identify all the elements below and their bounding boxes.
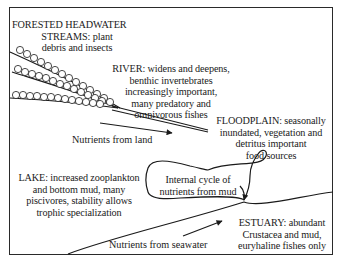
label-internal-cycle: Internal cycle of nutrients from mud (148, 174, 248, 197)
estuary-line-2: Crustacea and mud, (228, 229, 336, 241)
headwater-line-1: FORESTED HEADWATER (12, 19, 142, 31)
label-lake: LAKE: increased zooplankton and bottom m… (10, 172, 148, 218)
label-floodplain: FLOODPLAIN: seasonally inundated, vegeta… (206, 115, 336, 161)
floodplain-line-3: detritus important (206, 138, 336, 150)
arrow-nutrients-seawater (183, 221, 222, 236)
label-estuary: ESTUARY: abundant Crustacea and mud, eur… (228, 217, 336, 252)
label-nutrients-from-seawater: Nutrients from seawater (109, 239, 207, 251)
internal-cycle-line-2: nutrients from mud (148, 186, 248, 198)
label-headwater-streams: FORESTED HEADWATER STREAMS: plant debris… (12, 19, 142, 54)
lake-line-4: trophic specialization (10, 207, 148, 219)
floodplain-line-1: FLOODPLAIN: seasonally (206, 115, 336, 127)
arrow-nutrients-land (100, 123, 172, 133)
river-line-2: benthic invertebrates (96, 75, 246, 87)
floodplain-line-2: inundated, vegetation and (206, 127, 336, 139)
headwater-line-2: STREAMS: plant (12, 31, 142, 43)
internal-cycle-line-1: Internal cycle of (148, 174, 248, 186)
label-river: RIVER: widens and deepens, benthic inver… (96, 63, 246, 121)
lake-line-3: piscivores, stability allows (10, 195, 148, 207)
estuary-line-3: euryhaline fishes only (228, 240, 336, 252)
lake-line-2: and bottom mud, many (10, 184, 148, 196)
lake-line-1: LAKE: increased zooplankton (10, 172, 148, 184)
river-line-3: increasingly important, (96, 86, 246, 98)
label-nutrients-from-land: Nutrients from land (72, 134, 152, 146)
estuary-line-1: ESTUARY: abundant (228, 217, 336, 229)
river-line-4: many predatory and (96, 98, 246, 110)
headwater-line-3: debris and insects (12, 42, 142, 54)
river-line-1: RIVER: widens and deepens, (96, 63, 246, 75)
floodplain-line-4: food sources (206, 150, 336, 162)
